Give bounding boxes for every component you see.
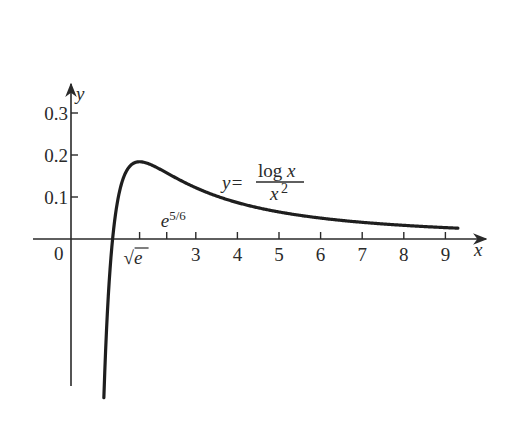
x-tick-label: 6 <box>316 244 326 265</box>
function-curve <box>104 162 458 398</box>
x-tick-label: √e <box>124 247 143 268</box>
x-tick-label: 9 <box>441 244 451 265</box>
y-tick-label: 0.1 <box>44 187 68 208</box>
svg-text:x: x <box>269 183 279 204</box>
function-label: y= log x x 2 <box>220 160 304 204</box>
svg-text:y=: y= <box>220 172 243 193</box>
x-tick-label: 4 <box>233 244 243 265</box>
x-tick-label: e5/6 <box>161 208 187 231</box>
y-ticks: 0.10.20.3 <box>44 103 78 208</box>
svg-text:2: 2 <box>281 181 288 196</box>
x-tick-label: 5 <box>274 244 284 265</box>
x-tick-label: 8 <box>399 244 409 265</box>
x-tick-label: 7 <box>357 244 367 265</box>
y-tick-label: 0.2 <box>44 145 68 166</box>
y-axis-label: y <box>74 83 85 104</box>
chart: √ee5/63456789 0.10.20.3 x y 0 y= log x x… <box>0 0 522 446</box>
x-tick-label: 3 <box>191 244 201 265</box>
svg-text:log x: log x <box>258 160 296 181</box>
origin-label: 0 <box>54 243 64 264</box>
x-axis-label: x <box>473 239 483 260</box>
y-tick-label: 0.3 <box>44 103 68 124</box>
x-ticks: √ee5/63456789 <box>124 208 451 268</box>
